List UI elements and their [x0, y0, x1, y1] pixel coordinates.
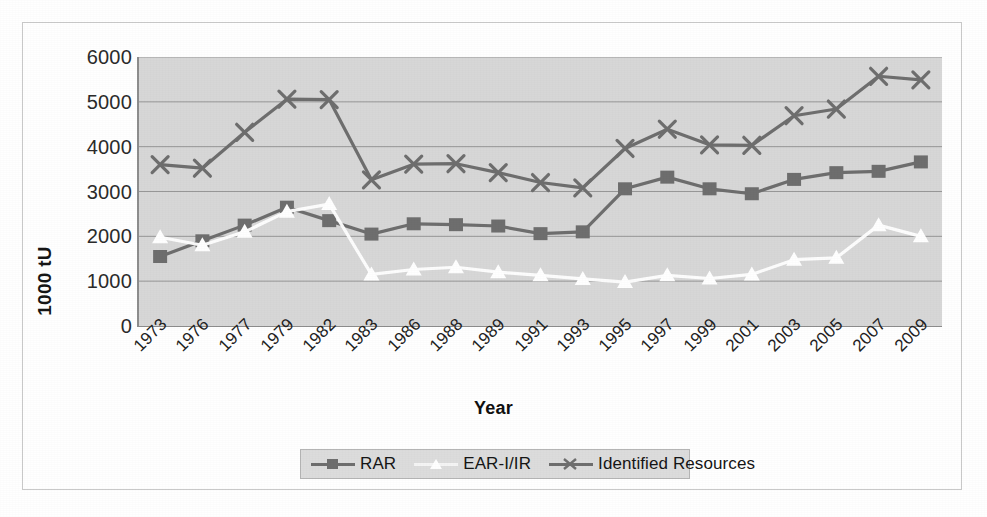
y-tick-label: 3000 — [46, 182, 132, 202]
x-axis-label: Year — [0, 398, 987, 419]
legend-item-ear[interactable]: EAR-I/IR — [414, 454, 531, 474]
data-point-square — [703, 182, 717, 195]
data-point-square — [153, 250, 167, 263]
triangle-marker-icon — [414, 456, 458, 472]
data-point-square — [364, 228, 378, 241]
data-point-square — [914, 155, 928, 168]
y-tick-label: 6000 — [46, 47, 132, 67]
chart-figure: 1000 tU 6000500040003000200010000 197319… — [0, 0, 987, 517]
legend-label-identified-resources: Identified Resources — [598, 454, 755, 474]
legend-label-ear: EAR-I/IR — [463, 454, 531, 474]
data-point-square — [745, 187, 759, 200]
series-canvas — [139, 57, 942, 326]
data-point-square — [576, 225, 590, 238]
data-point-square — [491, 220, 505, 233]
legend-item-rar[interactable]: RAR — [311, 454, 396, 474]
series-rar — [153, 155, 928, 263]
legend-label-rar: RAR — [360, 454, 396, 474]
y-tick-label: 5000 — [46, 92, 132, 112]
data-point-x — [237, 124, 253, 140]
data-point-x — [617, 140, 633, 156]
data-point-square — [534, 227, 548, 240]
data-point-triangle — [871, 217, 887, 231]
y-tick-label: 2000 — [46, 226, 132, 246]
legend-item-identified-resources[interactable]: Identified Resources — [549, 454, 755, 474]
data-point-square — [449, 218, 463, 231]
y-tick-label: 0 — [46, 316, 132, 336]
data-point-x — [363, 172, 379, 188]
data-point-square — [787, 173, 801, 186]
data-point-square — [872, 165, 886, 178]
chart-legend: RAR EAR-I/IR Identified Resources — [300, 449, 690, 479]
data-point-x — [659, 121, 675, 137]
data-point-square — [618, 182, 632, 195]
data-point-square — [407, 217, 421, 230]
series-ear-i-ir — [152, 196, 929, 288]
plot-area — [137, 57, 942, 327]
square-marker-icon — [311, 456, 355, 472]
y-tick-label: 4000 — [46, 137, 132, 157]
data-point-triangle — [321, 196, 337, 210]
y-tick-label: 1000 — [46, 271, 132, 291]
y-axis-ticks: 6000500040003000200010000 — [40, 0, 132, 340]
data-point-square — [660, 171, 674, 184]
x-marker-icon — [549, 456, 593, 472]
data-point-square — [829, 166, 843, 179]
data-point-square — [322, 214, 336, 227]
